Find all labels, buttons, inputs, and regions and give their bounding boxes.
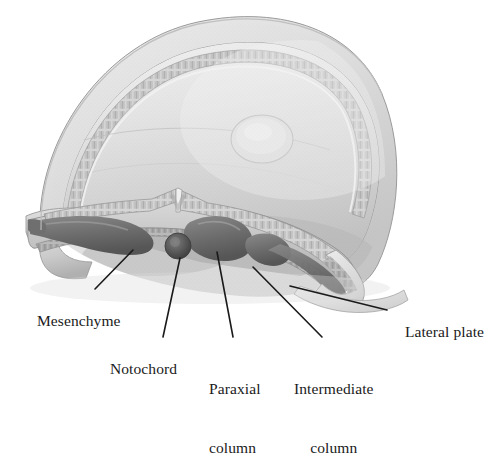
label-intermediate-column-line2: column [294, 438, 374, 457]
label-intermediate-column: Intermediate column [294, 340, 374, 457]
label-lateral-plate: Lateral plate [389, 303, 484, 360]
label-notochord: Notochord [94, 340, 177, 397]
notochord-mass [165, 233, 191, 259]
label-notochord-text: Notochord [110, 360, 177, 377]
label-paraxial-column-line1: Paraxial [209, 379, 261, 399]
label-lateral-plate-text: Lateral plate [405, 323, 484, 340]
label-intermediate-column-line1: Intermediate [294, 379, 374, 399]
label-paraxial-column: Paraxial column [209, 340, 261, 457]
label-paraxial-column-line2: column [209, 438, 261, 457]
label-mesenchyme-text: Mesenchyme [37, 312, 121, 329]
